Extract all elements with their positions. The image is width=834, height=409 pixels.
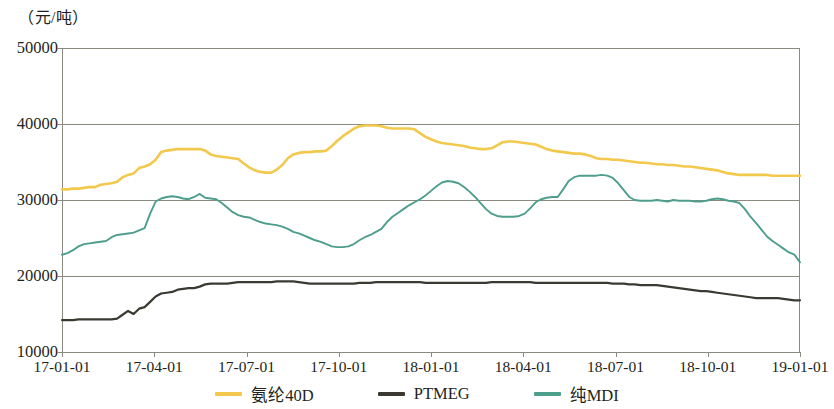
legend-item[interactable]: 氨纶40D: [215, 382, 313, 406]
series-line-ptmeg: [62, 281, 800, 320]
legend-color-swatch: [378, 392, 405, 396]
legend-label: 氨纶40D: [251, 382, 313, 406]
legend-color-swatch: [534, 392, 561, 396]
legend-label: PTMEG: [414, 384, 470, 404]
plot-area: [0, 0, 834, 409]
series-line-pure-mdi: [62, 175, 800, 262]
series-line-spandex-40d: [62, 126, 800, 190]
legend-item[interactable]: 纯MDI: [534, 382, 619, 406]
chart-legend: 氨纶40DPTMEG纯MDI: [0, 382, 834, 406]
line-chart: （元/吨） 5000040000300002000010000 17-01-01…: [0, 0, 834, 409]
legend-color-swatch: [215, 392, 242, 396]
legend-label: 纯MDI: [570, 382, 619, 406]
legend-item[interactable]: PTMEG: [378, 384, 470, 404]
